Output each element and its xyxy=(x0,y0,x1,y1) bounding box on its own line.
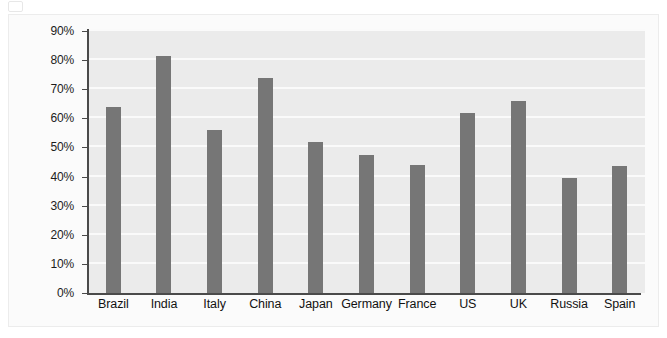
bar xyxy=(258,78,273,293)
x-axis-tick-label: Russia xyxy=(550,297,588,311)
x-axis-tick-label: France xyxy=(398,297,436,311)
y-axis-line xyxy=(87,29,89,295)
y-axis-tick-label: 10% xyxy=(18,258,74,270)
bar xyxy=(308,142,323,293)
figure-container: 0%10%20%30%40%50%60%70%80%90% BrazilIndi… xyxy=(0,0,667,338)
y-axis-tick-mark xyxy=(82,235,87,236)
bar xyxy=(359,155,374,293)
y-axis-tick-label: 0% xyxy=(18,287,74,299)
y-axis-tick-label: 90% xyxy=(18,25,74,37)
bar xyxy=(410,165,425,293)
x-axis-tick-label: UK xyxy=(510,297,527,311)
bar xyxy=(562,178,577,293)
x-axis-tick-label: Japan xyxy=(299,297,333,311)
x-axis-tick-label: Germany xyxy=(341,297,392,311)
bar xyxy=(156,56,171,293)
y-axis-tick-mark xyxy=(82,60,87,61)
plot-area xyxy=(88,31,645,293)
gridline xyxy=(88,87,645,89)
x-axis-tick-label: India xyxy=(151,297,178,311)
scan-artifact-icon xyxy=(8,1,23,12)
y-axis-tick-label: 70% xyxy=(18,83,74,95)
y-axis-tick-mark xyxy=(82,206,87,207)
x-axis-tick-label: Italy xyxy=(203,297,225,311)
y-axis-tick-mark xyxy=(82,89,87,90)
x-axis-line xyxy=(87,293,641,295)
bar xyxy=(612,166,627,293)
x-axis-tick-label: Spain xyxy=(604,297,635,311)
bar xyxy=(207,130,222,293)
gridline xyxy=(88,29,645,31)
gridline xyxy=(88,116,645,118)
y-axis-tick-label: 60% xyxy=(18,112,74,124)
y-axis-tick-label: 40% xyxy=(18,171,74,183)
gridline xyxy=(88,145,645,147)
x-axis-tick-label: US xyxy=(459,297,476,311)
x-axis-tick-label: Brazil xyxy=(98,297,129,311)
y-axis-tick-mark xyxy=(82,177,87,178)
y-axis-tick-mark xyxy=(82,264,87,265)
gridline xyxy=(88,58,645,60)
bar xyxy=(106,107,121,293)
x-axis-tick-label: China xyxy=(249,297,281,311)
bar xyxy=(460,113,475,293)
bar-chart: 0%10%20%30%40%50%60%70%80%90% BrazilIndi… xyxy=(8,14,659,327)
y-axis-tick-mark xyxy=(82,118,87,119)
y-axis-tick-mark xyxy=(82,31,87,32)
y-axis-tick-mark xyxy=(82,147,87,148)
y-axis-tick-label: 50% xyxy=(18,141,74,153)
y-axis-tick-mark xyxy=(82,293,87,294)
y-axis-tick-label: 30% xyxy=(18,200,74,212)
y-axis-tick-label: 80% xyxy=(18,54,74,66)
y-axis-tick-label: 20% xyxy=(18,229,74,241)
bar xyxy=(511,101,526,293)
